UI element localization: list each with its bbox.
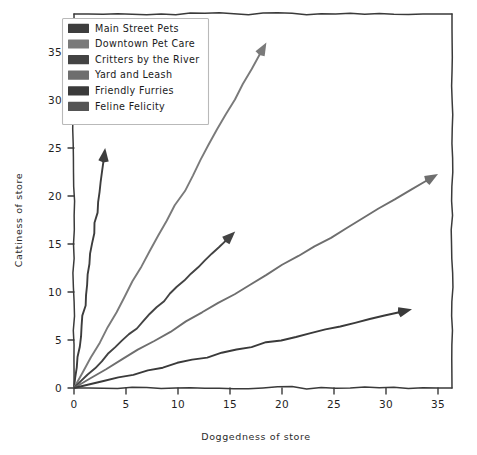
y-tick-label: 25 [48,142,62,154]
x-tick-label: 30 [379,398,393,410]
legend-swatch [68,86,89,95]
arrow-3 [74,232,235,388]
arrow-5 [74,307,412,388]
x-tick-label: 15 [223,398,237,410]
x-tick-label: 20 [275,398,289,410]
arrow-1 [74,148,109,388]
y-tick-label: 30 [48,94,62,106]
y-axis-tick-labels: 05101520253035 [48,46,62,394]
x-tick-label: 5 [123,398,130,410]
legend: Main Street PetsDowntown Pet CareCritter… [63,19,209,125]
legend-label: Feline Felicity [95,101,165,112]
legend-label: Critters by the River [95,54,200,65]
y-tick-label: 20 [48,190,62,202]
legend-swatch [68,71,89,80]
x-tick-label: 0 [71,398,78,410]
legend-swatch [68,24,89,33]
x-tick-label: 10 [171,398,185,410]
legend-label: Yard and Leash [94,69,172,80]
arrow-4 [74,174,438,388]
x-tick-label: 25 [327,398,341,410]
chart-canvas: 05101520253035 05101520253035 Doggedness… [0,0,477,455]
x-axis-title: Doggedness of store [201,431,310,442]
legend-label: Friendly Furries [95,85,174,96]
chart-figure: 05101520253035 05101520253035 Doggedness… [0,0,477,455]
y-axis-title: Cattiness of store [13,173,24,267]
legend-swatch [68,39,89,48]
legend-swatch [68,102,89,111]
y-tick-label: 15 [48,238,62,250]
y-tick-label: 5 [55,334,62,346]
y-tick-label: 0 [55,382,62,394]
x-axis-tick-labels: 05101520253035 [71,398,445,410]
legend-label: Main Street Pets [95,23,179,34]
legend-swatch [68,55,89,64]
y-tick-label: 10 [48,286,62,298]
y-tick-label: 35 [48,46,62,58]
legend-label: Downtown Pet Care [95,38,195,49]
x-tick-label: 35 [431,398,445,410]
